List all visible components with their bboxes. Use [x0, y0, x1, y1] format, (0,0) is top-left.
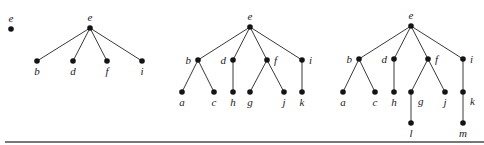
tree-4-edge-b-c — [359, 59, 375, 92]
tree-2-node-f — [104, 58, 110, 64]
labels-layer: eebdfiebdfiachgjkebdfiachgjklm — [9, 9, 476, 139]
tree-4-node-i — [460, 56, 466, 62]
tree-4-label-j: j — [441, 96, 446, 108]
tree-4-label-k: k — [470, 95, 476, 107]
tree-3-node-a — [179, 89, 185, 95]
tree-2-label-i: i — [140, 65, 143, 77]
tree-3-node-i — [299, 57, 305, 63]
tree-4-label-a: a — [340, 96, 346, 108]
tree-4-node-c — [372, 89, 378, 95]
tree-2-label-b: b — [34, 65, 40, 77]
nodes-layer — [8, 23, 466, 126]
tree-3-label-g: g — [247, 96, 253, 108]
tree-2-node-d — [70, 58, 76, 64]
tree-3-label-h: h — [230, 96, 236, 108]
tree-4-label-f: f — [435, 53, 440, 65]
tree-4-node-g — [408, 89, 414, 95]
tree-2-label-d: d — [70, 65, 76, 77]
tree-4-node-f — [425, 56, 431, 62]
tree-2-node-e — [87, 25, 93, 31]
tree-4-node-k — [460, 89, 466, 95]
tree-2-node-i — [139, 58, 145, 64]
tree-3-label-f: f — [274, 54, 279, 66]
tree-3-node-b — [195, 57, 201, 63]
tree-3-node-h — [230, 89, 236, 95]
tree-3-label-e: e — [248, 10, 253, 22]
tree-2-label-e: e — [88, 11, 93, 23]
tree-3-node-j — [281, 89, 287, 95]
tree-3-label-b: b — [186, 54, 192, 66]
tree-2-label-f: f — [105, 65, 110, 77]
tree-3-node-k — [299, 89, 305, 95]
tree-3-edge-b-c — [198, 60, 214, 92]
tree-4-label-d: d — [382, 53, 388, 65]
tree-3-label-d: d — [221, 54, 227, 66]
tree-3-node-f — [264, 57, 270, 63]
tree-1-node-e — [8, 26, 14, 32]
tree-3-node-g — [247, 89, 253, 95]
tree-3-label-i: i — [309, 54, 312, 66]
tree-4-node-a — [340, 89, 346, 95]
tree-4-label-h: h — [391, 96, 397, 108]
tree-4-label-c: c — [373, 96, 378, 108]
tree-2-node-b — [34, 58, 40, 64]
tree-4-node-e — [408, 23, 414, 29]
tree-3-label-k: k — [300, 96, 306, 108]
edges-layer — [37, 26, 463, 123]
tree-4-node-h — [391, 89, 397, 95]
tree-4-label-m: m — [459, 127, 467, 139]
tree-1-label-e: e — [9, 12, 14, 24]
tree-4-node-j — [442, 89, 448, 95]
tree-4-label-b: b — [347, 53, 353, 65]
tree-4-label-l: l — [409, 127, 412, 139]
tree-4-node-m — [460, 120, 466, 126]
tree-3-node-d — [230, 57, 236, 63]
tree-3-edge-f-g — [250, 60, 267, 92]
tree-4-label-g: g — [418, 95, 424, 107]
tree-2-edge-e-i — [90, 28, 142, 61]
tree-4-edge-f-g — [411, 59, 428, 92]
tree-3-label-a: a — [179, 96, 185, 108]
tree-diagram: eebdfiebdfiachgjkebdfiachgjklm — [0, 0, 484, 145]
tree-3-node-c — [211, 89, 217, 95]
tree-3-label-j: j — [280, 96, 285, 108]
tree-4-node-d — [391, 56, 397, 62]
tree-4-node-l — [408, 120, 414, 126]
tree-3-node-e — [247, 24, 253, 30]
tree-3-label-c: c — [212, 96, 217, 108]
tree-4-node-b — [356, 56, 362, 62]
tree-4-label-e: e — [409, 9, 414, 21]
tree-4-label-i: i — [470, 53, 473, 65]
